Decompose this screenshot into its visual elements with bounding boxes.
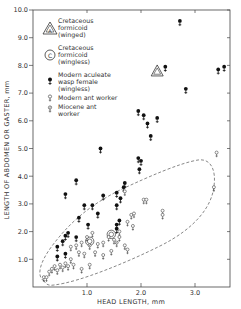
filled-female-marker <box>74 178 78 185</box>
y-axis-title: LENGTH OF ABDOMEN OR GASTER, mm <box>3 81 11 220</box>
legend-label: (winged) <box>58 31 86 39</box>
legend-item-cretaceous-winged: A Cretaceous formicoid (winged) <box>43 17 94 39</box>
open-female-marker <box>130 213 133 219</box>
circle-c-icon: C <box>45 50 55 60</box>
x-tick-label: 3.0 <box>190 289 200 297</box>
filled-female-marker <box>118 219 122 226</box>
filled-female-marker <box>119 196 123 203</box>
y-tick-label: 10.0 <box>14 6 28 14</box>
open-female-marker <box>118 236 121 242</box>
open-female-marker <box>69 245 72 251</box>
legend: A Cretaceous formicoid (winged) C Cretac… <box>43 17 118 117</box>
y-tick-label: 7.0 <box>18 89 28 97</box>
y-tick-label: 3.0 <box>18 200 28 208</box>
legend-label: Cretaceous <box>58 44 94 51</box>
open-female-marker <box>94 251 97 257</box>
filled-female-icon <box>48 78 52 86</box>
open-female-marker <box>91 231 94 237</box>
triangle-a-icon: A <box>43 22 57 34</box>
filled-female-marker <box>178 19 182 26</box>
x-tick-label: 1.0 <box>82 289 92 297</box>
x-tick-label: 2.0 <box>136 289 146 297</box>
open-female-slash-marker <box>115 241 118 247</box>
open-female-marker <box>88 263 91 269</box>
open-female-marker <box>69 258 72 264</box>
open-female-marker <box>110 249 113 255</box>
circle-letter: C <box>48 52 52 59</box>
open-female-marker <box>126 248 129 254</box>
filled-female-marker <box>64 234 68 241</box>
open-female-marker <box>72 263 75 269</box>
filled-female-marker <box>139 159 143 166</box>
filled-female-marker <box>123 181 127 188</box>
y-tick-label: 1.0 <box>18 256 28 264</box>
open-female-marker <box>86 236 89 242</box>
y-tick-label: 2.0 <box>18 228 28 236</box>
filled-female-marker <box>82 203 86 210</box>
open-female-marker <box>59 263 62 269</box>
filled-female-marker <box>146 122 150 129</box>
open-female-marker <box>131 224 134 230</box>
y-tick-label: 6.0 <box>18 117 28 125</box>
open-female-marker <box>96 242 99 248</box>
filled-female-marker <box>55 255 59 262</box>
filled-female-marker <box>101 194 105 201</box>
filled-female-marker <box>142 113 146 120</box>
x-axis-ticks: 1.02.03.0 <box>82 10 200 297</box>
open-female-slash-icon <box>48 106 51 113</box>
legend-label: formicoid <box>58 51 88 58</box>
filled-female-marker <box>184 87 188 94</box>
filled-female-marker <box>115 227 119 234</box>
open-female-marker <box>75 244 78 250</box>
legend-label: Modern ant worker <box>58 94 118 101</box>
open-female-marker <box>107 236 110 242</box>
filled-female-marker <box>216 68 220 75</box>
triangle-a-marker <box>151 65 163 76</box>
legend-label: Cretaceous <box>58 17 94 24</box>
open-female-marker <box>61 266 64 272</box>
filled-female-marker <box>137 167 141 174</box>
filled-female-marker <box>149 134 153 141</box>
y-tick-label: 5.0 <box>18 145 28 153</box>
scatter-chart: 1.02.03.04.05.06.07.08.09.010.0 1.02.03.… <box>0 0 241 309</box>
open-female-marker <box>67 265 70 271</box>
filled-female-marker <box>77 216 81 223</box>
legend-label: (wingless) <box>58 58 90 66</box>
filled-female-marker <box>155 116 159 123</box>
open-female-marker <box>56 269 59 275</box>
open-female-marker <box>215 151 218 157</box>
legend-label: formicoid <box>58 24 88 31</box>
filled-female-marker <box>222 65 226 72</box>
filled-female-marker <box>61 239 65 246</box>
open-female-marker <box>45 276 48 282</box>
legend-item-miocene-ant: Miocene ant worker <box>48 103 97 117</box>
legend-label: worker <box>58 110 80 117</box>
open-female-marker <box>80 241 83 247</box>
open-female-marker <box>212 186 215 192</box>
filled-female-marker <box>91 203 95 210</box>
legend-label: Miocene ant <box>58 103 97 110</box>
legend-item-wasp-female: Modern aculeate wasp female (wingless) <box>48 71 111 93</box>
filled-female-marker <box>96 212 100 219</box>
open-female-marker <box>161 213 164 219</box>
filled-female-marker <box>55 245 59 252</box>
legend-item-cretaceous-wingless: C Cretaceous formicoid (wingless) <box>45 44 94 66</box>
legend-label: Modern aculeate <box>58 71 111 78</box>
open-female-marker <box>80 267 83 273</box>
y-tick-label: 4.0 <box>18 173 28 181</box>
x-axis-title: HEAD LENGTH, mm <box>97 298 165 306</box>
filled-female-marker <box>74 235 78 242</box>
legend-label: (wingless) <box>58 85 90 93</box>
open-female-marker <box>77 251 80 257</box>
open-female-marker <box>102 254 105 260</box>
filled-female-marker <box>136 109 140 116</box>
filled-female-marker <box>115 203 119 210</box>
open-female-marker <box>145 198 148 204</box>
triangle-letter: A <box>48 28 52 34</box>
filled-female-marker <box>86 223 90 230</box>
open-female-marker <box>50 267 53 273</box>
filled-female-marker <box>99 146 103 153</box>
y-tick-label: 8.0 <box>18 62 28 70</box>
open-female-slash-marker <box>88 244 91 250</box>
legend-item-modern-ant: Modern ant worker <box>48 94 117 102</box>
